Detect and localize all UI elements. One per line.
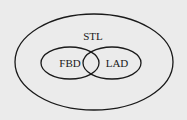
label-stl: STL: [83, 30, 103, 42]
outer-ellipse-stl: [15, 14, 173, 110]
label-lad: LAD: [106, 57, 129, 69]
label-fbd: FBD: [59, 57, 80, 69]
venn-diagram: STL FBD LAD: [0, 0, 187, 120]
